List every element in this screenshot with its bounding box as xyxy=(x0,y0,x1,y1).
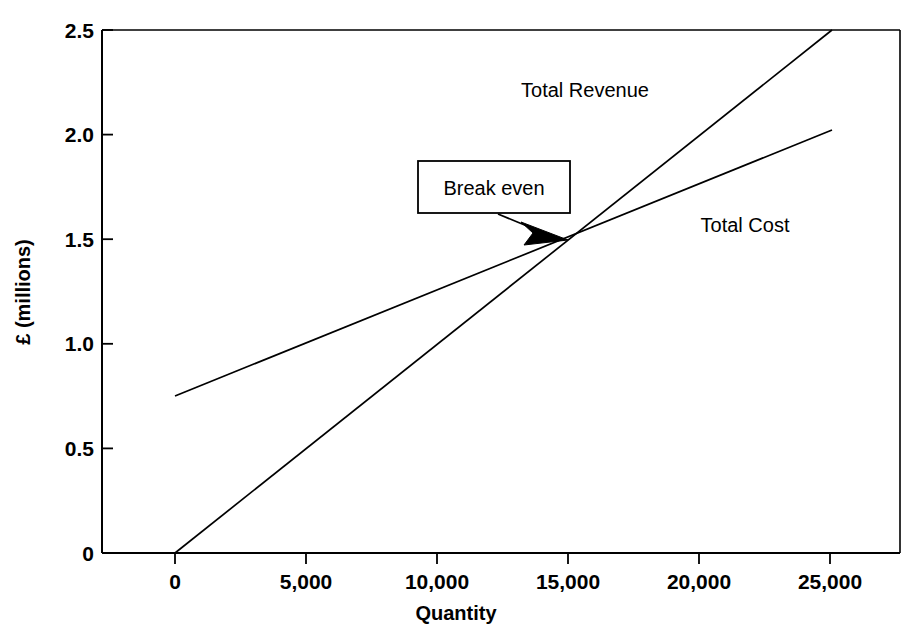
x-tick-label-15000: 15,000 xyxy=(536,570,600,593)
y-tick-label-2-0: 2.0 xyxy=(65,123,94,146)
y-tick-label-0: 0 xyxy=(82,542,94,565)
total-revenue-line xyxy=(175,30,832,553)
x-tick-label-10000: 10,000 xyxy=(405,570,469,593)
break-even-annotation: Break even xyxy=(418,161,570,245)
x-axis-tick-labels: 0 5,000 10,000 15,000 20,000 25,000 xyxy=(169,570,862,593)
data-series xyxy=(175,30,832,553)
break-even-arrow-head xyxy=(521,222,568,245)
x-tick-label-0: 0 xyxy=(169,570,181,593)
break-even-label: Break even xyxy=(443,177,544,199)
y-tick-label-0-5: 0.5 xyxy=(65,437,95,460)
y-axis-ticks xyxy=(102,30,113,553)
total-cost-label: Total Cost xyxy=(701,214,790,236)
y-axis-title: £ (millions) xyxy=(12,239,34,345)
y-axis-tick-labels: 2.5 2.0 1.5 1.0 0.5 0 xyxy=(65,19,95,565)
y-tick-label-1-5: 1.5 xyxy=(65,228,95,251)
y-tick-label-1-0: 1.0 xyxy=(65,332,94,355)
x-tick-label-25000: 25,000 xyxy=(798,570,862,593)
chart-page: 2.5 2.0 1.5 1.0 0.5 0 0 5,000 10,000 15,… xyxy=(0,0,914,629)
break-even-chart: 2.5 2.0 1.5 1.0 0.5 0 0 5,000 10,000 15,… xyxy=(0,0,914,629)
total-revenue-label: Total Revenue xyxy=(521,79,649,101)
x-axis-ticks xyxy=(175,553,830,564)
x-axis-title: Quantity xyxy=(415,602,497,624)
plot-frame xyxy=(102,30,900,553)
x-tick-label-20000: 20,000 xyxy=(667,570,731,593)
y-tick-label-2-5: 2.5 xyxy=(65,19,95,42)
x-tick-label-5000: 5,000 xyxy=(280,570,333,593)
